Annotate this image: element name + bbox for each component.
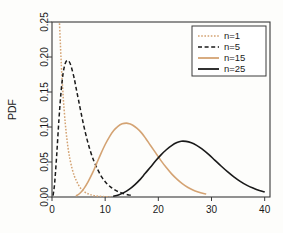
- y-tick-label: 0.00: [39, 187, 50, 207]
- chart-figure: 0.000.050.100.150.200.25 010203040 PDF n…: [0, 0, 283, 233]
- x-tick-label: 40: [259, 204, 271, 215]
- y-axis-title: PDF: [6, 99, 18, 120]
- legend-label-n5: n=5: [224, 41, 240, 52]
- y-tick-label: 0.05: [39, 152, 50, 172]
- pdf-line-chart: 0.000.050.100.150.200.25 010203040 PDF n…: [0, 0, 283, 233]
- curve-n15: [76, 123, 206, 196]
- legend-label-n1: n=1: [224, 30, 240, 41]
- legend-label-n15: n=15: [224, 52, 245, 63]
- y-tick-label: 0.15: [39, 82, 50, 102]
- curve-n5: [53, 60, 132, 195]
- y-axis-ticks: 0.000.050.100.150.200.25: [39, 12, 53, 207]
- x-tick-label: 10: [100, 204, 112, 215]
- y-tick-label: 0.25: [39, 12, 50, 32]
- x-tick-label: 20: [153, 204, 165, 215]
- chart-legend: n=1n=5n=15n=25: [192, 26, 266, 76]
- y-tick-label: 0.20: [39, 47, 50, 67]
- legend-label-n25: n=25: [224, 63, 245, 74]
- x-axis-ticks: 010203040: [49, 197, 270, 215]
- curve-n1: [59, 21, 110, 197]
- x-tick-label: 30: [206, 204, 218, 215]
- x-tick-label: 0: [49, 204, 55, 215]
- y-tick-label: 0.10: [39, 117, 50, 137]
